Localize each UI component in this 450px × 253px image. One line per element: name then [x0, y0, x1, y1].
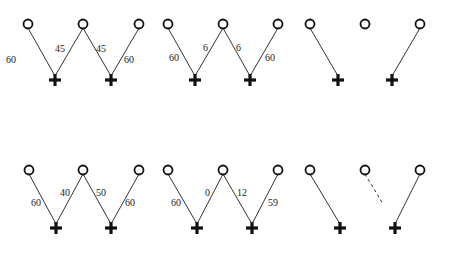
weight-diagram: 60454560606660604050606001259	[0, 0, 450, 253]
panel-4: 60405060	[25, 166, 144, 235]
edge	[83, 174, 111, 224]
edge	[392, 28, 420, 76]
edge-weight-label: 60	[31, 197, 41, 208]
edge-weight-label: 60	[169, 52, 179, 63]
panel-1: 60454560	[6, 20, 144, 87]
circle-node-icon	[274, 166, 283, 175]
circle-node-icon	[25, 166, 34, 175]
panel-3	[306, 20, 425, 87]
edge-weight-label: 60	[265, 52, 275, 63]
circle-node-icon	[24, 20, 33, 29]
edge-weight-label: 6	[236, 42, 241, 53]
circle-node-icon	[274, 20, 283, 29]
circle-node-icon	[306, 166, 315, 175]
edge	[310, 174, 340, 224]
circle-node-icon	[416, 166, 425, 175]
edge-weight-label: 12	[237, 187, 247, 198]
edge-weight-label: 60	[171, 197, 181, 208]
edge	[395, 174, 420, 224]
plus-node-icon	[105, 74, 117, 86]
circle-node-icon	[79, 166, 88, 175]
edge	[310, 28, 338, 76]
edge-weight-label: 40	[60, 187, 70, 198]
edge	[197, 174, 223, 224]
plus-node-icon	[191, 222, 203, 234]
plus-node-icon	[246, 222, 258, 234]
circle-node-icon	[79, 20, 88, 29]
edge-weight-label: 0	[205, 187, 210, 198]
plus-node-icon	[50, 222, 62, 234]
circle-node-icon	[164, 20, 173, 29]
plus-node-icon	[244, 74, 256, 86]
edge	[195, 28, 223, 76]
panel-6	[306, 166, 425, 235]
circle-node-icon	[164, 166, 173, 175]
edge-weight-label: 6	[203, 42, 208, 53]
edge	[56, 174, 83, 224]
edge	[28, 28, 55, 76]
plus-node-icon	[386, 74, 398, 86]
plus-node-icon	[189, 74, 201, 86]
circle-node-icon	[306, 20, 315, 29]
panel-5: 6001259	[164, 166, 283, 235]
circle-node-icon	[135, 166, 144, 175]
edge	[223, 174, 252, 224]
edge-weight-label: 45	[55, 43, 65, 54]
dashed-edge	[365, 174, 383, 204]
circle-node-icon	[219, 166, 228, 175]
edge-weight-label: 50	[96, 187, 106, 198]
circle-node-icon	[361, 166, 370, 175]
circle-node-icon	[135, 20, 144, 29]
plus-node-icon	[49, 74, 61, 86]
edge-weight-label: 59	[268, 197, 278, 208]
plus-node-icon	[105, 222, 117, 234]
edge	[111, 28, 139, 76]
circle-node-icon	[361, 20, 370, 29]
edge-weight-label: 60	[125, 197, 135, 208]
plus-node-icon	[334, 222, 346, 234]
edge-weight-label: 45	[96, 43, 106, 54]
edge-weight-label: 60	[124, 54, 134, 65]
circle-node-icon	[416, 20, 425, 29]
panel-2: 606660	[164, 20, 283, 87]
plus-node-icon	[332, 74, 344, 86]
plus-node-icon	[389, 222, 401, 234]
circle-node-icon	[219, 20, 228, 29]
edge-weight-label: 60	[6, 54, 16, 65]
